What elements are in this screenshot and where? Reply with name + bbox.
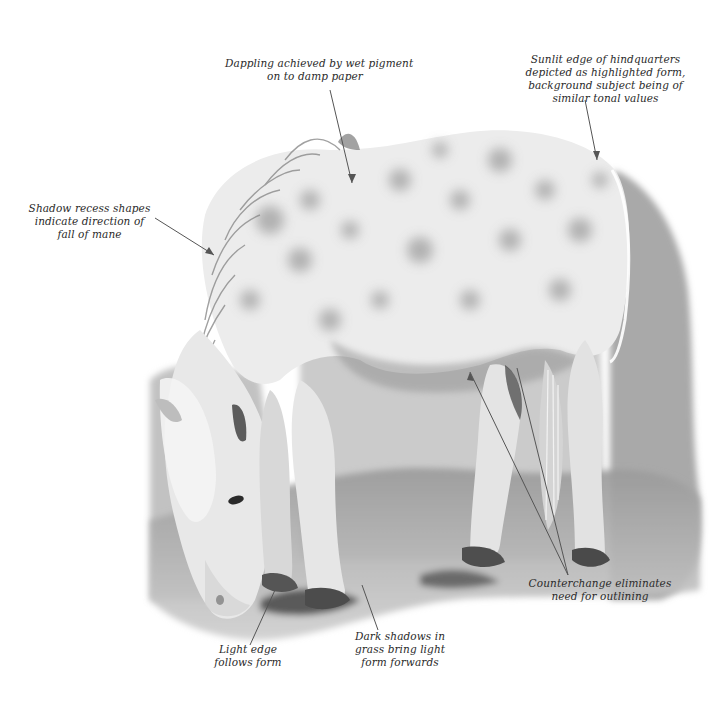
annotation-counterchange: Counterchange eliminates need for outlin… [520,577,680,603]
annotation-light-edge: Light edge follows form [208,643,288,669]
annotation-dark-shadows: Dark shadows in grass bring light form f… [340,630,460,669]
annotation-dappling: Dappling achieved by wet pigment on to d… [225,57,405,83]
annotation-shadow-recess: Shadow recess shapes indicate direction … [22,202,157,241]
pony-painting [0,0,727,715]
annotated-illustration: Dappling achieved by wet pigment on to d… [0,0,727,715]
annotation-sunlit-edge: Sunlit edge of hindquarters depicted as … [518,53,693,105]
